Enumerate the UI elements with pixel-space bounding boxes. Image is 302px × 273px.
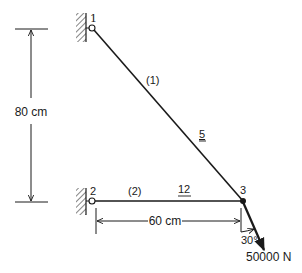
truss-diagram: 80 cm 1 2 (1) 5 (2) 12 xyxy=(0,0,302,273)
node-label-3: 3 xyxy=(240,184,246,196)
pin-icon xyxy=(89,198,95,204)
node-3: 3 xyxy=(240,184,246,204)
element-1: (1) 5 xyxy=(94,30,243,201)
element-2-label: (2) xyxy=(128,185,141,197)
wall-support-node-2: 2 xyxy=(76,185,96,215)
load-magnitude-label: 50000 N xyxy=(246,250,291,264)
vertical-dimension: 80 cm xyxy=(15,29,48,202)
angle-arc xyxy=(241,229,254,232)
applied-load: 30° 50000 N xyxy=(241,202,291,264)
wall-hatch-icon xyxy=(76,13,86,42)
element-1-label: (1) xyxy=(146,74,159,86)
element-1-bar xyxy=(94,30,243,201)
element-1-property: 5 xyxy=(199,128,205,140)
wall-support-node-1: 1 xyxy=(76,12,97,42)
element-2: (2) 12 xyxy=(95,183,243,201)
horizontal-dimension: 60 cm xyxy=(96,208,241,234)
load-angle-label: 30° xyxy=(241,234,258,246)
node-label-2: 2 xyxy=(90,185,96,197)
horizontal-dimension-label: 60 cm xyxy=(149,214,182,228)
vertical-dimension-label: 80 cm xyxy=(15,105,48,119)
node-label-1: 1 xyxy=(90,12,97,25)
wall-hatch-icon xyxy=(76,188,86,215)
element-2-property: 12 xyxy=(178,183,190,195)
